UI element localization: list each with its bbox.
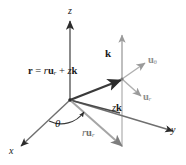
x-axis-label-text: x: [9, 145, 13, 156]
u-theta-label: uθ: [148, 55, 157, 66]
diagram-canvas: [0, 0, 186, 165]
position-vector-label: r = rur + zk: [28, 66, 77, 77]
u-r-label: ur: [143, 92, 151, 103]
position-vector-k: k: [72, 65, 78, 76]
vector-tip-point: [120, 77, 123, 80]
ru-r-label-subscript: r: [92, 131, 95, 138]
cylindrical-coordinates-figure: r = rur + zk z x y k uθ ur zk rur θ: [0, 0, 186, 165]
position-vector-arrow: [70, 80, 121, 100]
y-axis-label-text: y: [171, 124, 175, 135]
theta-angle-label: θ: [55, 118, 60, 129]
k-unit-vector-label: k: [105, 48, 111, 59]
zk-label: zk: [112, 103, 122, 114]
x-axis-label: x: [9, 146, 13, 156]
ru-r-label: rur: [82, 128, 94, 139]
zk-label-k: k: [116, 102, 122, 113]
x-axis-line: [21, 100, 70, 146]
u-r-label-subscript: r: [149, 95, 152, 102]
position-vector-bold-r: r: [28, 65, 33, 76]
origin-point: [68, 98, 72, 102]
position-vector-equals: =: [35, 65, 41, 76]
u-theta-vector-arrow: [122, 63, 145, 79]
u-theta-label-subscript: θ: [154, 58, 157, 65]
y-axis-label: y: [171, 125, 175, 135]
z-axis-label: z: [68, 6, 72, 16]
u-r-vector-arrow: [122, 79, 141, 96]
theta-angle-label-text: θ: [55, 117, 60, 129]
position-vector-u-subscript: r: [54, 69, 57, 76]
position-vector-plus: +: [59, 65, 65, 76]
k-unit-vector-label-text: k: [105, 47, 111, 59]
z-axis-label-text: z: [68, 5, 72, 16]
